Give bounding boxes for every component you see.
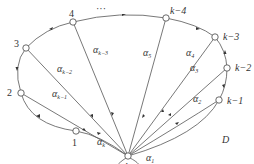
edge-label: αk−2	[57, 63, 72, 75]
node-label: 3	[14, 38, 19, 49]
node-label: k−4	[170, 5, 186, 16]
graph-node	[23, 45, 29, 51]
center-node	[125, 153, 131, 159]
graph-node	[70, 19, 76, 25]
node-label: k−2	[235, 62, 251, 73]
edge-label: α3	[190, 62, 198, 74]
graph-node	[224, 65, 230, 71]
edge-label: α5	[143, 47, 151, 59]
boundary-cycle	[16, 14, 228, 156]
node-label: k−3	[223, 31, 239, 42]
center-node-label: k	[125, 161, 130, 164]
edge-label: αk−1	[52, 88, 67, 100]
edge-label: αk	[97, 136, 105, 148]
graph-node	[163, 15, 169, 21]
node-layer	[18, 15, 230, 159]
node-label: 2	[7, 87, 12, 98]
region-label: D	[221, 134, 230, 145]
node-label: 4	[69, 8, 74, 19]
edge-label: α4	[186, 47, 194, 59]
spoke-edges	[21, 18, 227, 156]
graph-canvas: 1234k−4k−3k−2k−1kαkαk−1αk−2αk−3α5α4α3α2α…	[0, 0, 254, 164]
graph-diagram: 1234k−4k−3k−2k−1kαkαk−1αk−2αk−3α5α4α3α2α…	[0, 0, 254, 164]
graph-node	[212, 34, 218, 40]
graph-node	[73, 128, 79, 134]
graph-node	[216, 97, 222, 103]
label-layer: 1234k−4k−3k−2k−1kαkαk−1αk−2αk−3α5α4α3α2α…	[7, 5, 251, 164]
edge-label: α2	[193, 93, 201, 105]
node-label: k−1	[227, 95, 243, 106]
edge-label: αk−3	[93, 44, 108, 56]
edge-label: α1	[146, 152, 154, 164]
graph-node	[18, 90, 24, 96]
node-label: 1	[72, 137, 77, 148]
ellipsis-label: ···	[96, 3, 106, 14]
